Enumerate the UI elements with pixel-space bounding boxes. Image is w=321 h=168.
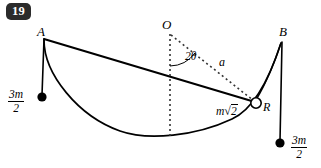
ring-mass-radicand: 2 [231, 104, 238, 117]
right-mass-numerator: 3m [291, 134, 307, 146]
string-B-vertical [280, 42, 282, 141]
string-A-to-R [44, 39, 255, 102]
radius-OR-dotted [171, 35, 254, 101]
left-mass-numerator: 3m [8, 88, 24, 100]
sqrt-icon: √ [224, 104, 231, 118]
string-A-vertical [42, 39, 44, 95]
point-label-o: O [162, 18, 171, 31]
point-label-r: R [263, 101, 270, 114]
right-mass-label: 3m 2 [291, 134, 307, 160]
bowl-arc [44, 40, 281, 136]
right-mass-dot [275, 138, 284, 147]
point-label-a: A [37, 25, 45, 38]
angle-label-2theta: 2θ [185, 50, 196, 62]
diagram-drawing [0, 0, 321, 168]
problem-number-badge: 19 [6, 3, 31, 20]
ring-R [251, 98, 261, 108]
right-mass-denominator: 2 [291, 148, 307, 160]
left-mass-dot [37, 92, 46, 101]
left-mass-denominator: 2 [8, 102, 24, 114]
radius-label-a: a [219, 56, 225, 68]
point-label-b: B [279, 25, 287, 38]
figure-canvas: 19 A O B R 2θ a m√2 3m 2 3m 2 [0, 0, 321, 168]
left-mass-label: 3m 2 [8, 88, 24, 114]
ring-mass-label: m√2 [216, 104, 238, 118]
